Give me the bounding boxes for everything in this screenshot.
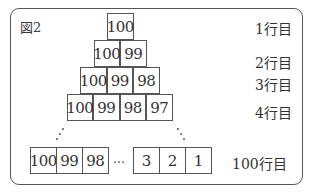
row-label-100: 100行目 [232,153,287,173]
cell-row100-99: 2 [159,147,186,174]
cell-row100-100: 1 [185,147,212,174]
cell-row4-3: 98 [120,94,147,121]
row-label-1: 1行目 [255,18,292,38]
ellipsis: … [113,152,125,166]
cell-row100-1: 100 [30,147,57,174]
cell-row3-3: 98 [133,67,160,94]
cell-row2-1: 100 [94,40,121,67]
cell-row100-3: 98 [82,147,109,174]
cell-row4-4: 97 [146,94,173,121]
cell-row100-98: 3 [133,147,160,174]
cell-row4-2: 99 [93,94,120,121]
row-label-4: 4行目 [255,102,292,122]
cell-row1-1: 100 [107,13,134,40]
cell-row2-2: 99 [120,40,147,67]
figure-label: 図2 [20,17,41,36]
cell-row100-2: 99 [56,147,83,174]
cell-row4-1: 100 [67,94,94,121]
row-label-2: 2行目 [255,52,292,72]
cell-row3-1: 100 [80,67,107,94]
row-label-3: 3行目 [255,74,292,94]
cell-row3-2: 99 [107,67,134,94]
